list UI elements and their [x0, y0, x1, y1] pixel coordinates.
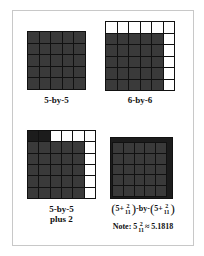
grid-cell	[118, 80, 129, 91]
grid-cell	[135, 165, 145, 175]
grid-cell	[62, 154, 72, 164]
grid-cell	[73, 154, 83, 164]
grid-5-by-5	[27, 31, 86, 90]
grid-cell	[74, 78, 85, 89]
fraction-2: 211	[164, 203, 170, 215]
grid-cell	[156, 154, 166, 164]
grid-cell	[141, 34, 152, 45]
grid-cell	[118, 45, 129, 56]
grid-cell	[73, 142, 83, 152]
grid-cell	[113, 143, 123, 153]
grid-5-by-5-plus-2	[27, 130, 96, 199]
grid-cell	[74, 32, 85, 43]
note-fraction: 211	[138, 221, 144, 233]
formula-whole-1: 5+	[116, 204, 125, 213]
formula: (5+211)-by-(5+211)	[98, 203, 188, 215]
grid-cell	[39, 154, 49, 164]
grid-cell	[63, 55, 74, 66]
grid-cell	[164, 34, 175, 45]
grid-cell	[106, 68, 117, 79]
grid-cell	[63, 32, 74, 43]
grid-cell	[118, 57, 129, 68]
grid-cell	[28, 165, 38, 175]
grid-cell	[124, 143, 134, 153]
grid-cell	[141, 57, 152, 68]
grid-cell	[164, 68, 175, 79]
grid-cell	[129, 34, 140, 45]
grid-cell	[141, 80, 152, 91]
grid-cell	[39, 176, 49, 186]
grid-cell	[40, 67, 51, 78]
paren-close-2: )	[170, 201, 174, 216]
grid-cell	[40, 55, 51, 66]
grid-cell	[85, 142, 95, 152]
grid-cell	[51, 67, 62, 78]
grid-cell	[51, 165, 61, 175]
grid-cell	[62, 188, 72, 198]
label-5-by-5-plus-2: 5-by-5 plus 2	[27, 204, 96, 224]
grid-6-by-6	[105, 21, 175, 91]
grid-cell	[51, 44, 62, 55]
grid-cell	[62, 131, 72, 141]
grid-cell	[51, 32, 62, 43]
grid-cell	[118, 68, 129, 79]
grid-cell	[85, 176, 95, 186]
label-line-1: 5-by-5	[27, 204, 96, 214]
grid-cell	[51, 131, 61, 141]
grid-cell	[124, 186, 134, 196]
denominator: 11	[164, 209, 170, 215]
grid-cell	[51, 188, 61, 198]
grid-cell	[28, 131, 38, 141]
grid-cell	[39, 188, 49, 198]
grid-cell	[51, 55, 62, 66]
grid-cell	[164, 80, 175, 91]
grid-cell	[145, 186, 155, 196]
grid-cell	[129, 22, 140, 33]
grid-cell	[51, 154, 61, 164]
grid-cell	[113, 175, 123, 185]
grid-cell	[39, 142, 49, 152]
grid-cell	[39, 165, 49, 175]
grid-cell	[156, 175, 166, 185]
grid-cell	[129, 57, 140, 68]
grid-cell	[156, 186, 166, 196]
grid-cell	[145, 165, 155, 175]
grid-cell	[28, 78, 39, 89]
grid-cell	[156, 143, 166, 153]
grid-cell	[62, 165, 72, 175]
grid-cell	[124, 175, 134, 185]
grid-cell	[141, 45, 152, 56]
grid-cell	[74, 67, 85, 78]
grid-fractional	[112, 142, 167, 197]
grid-cell	[39, 131, 49, 141]
label-6-by-6: 6-by-6	[105, 95, 175, 105]
grid-cell	[40, 78, 51, 89]
grid-cell	[51, 142, 61, 152]
grid-cell	[106, 45, 117, 56]
grid-cell	[113, 154, 123, 164]
grid-cell	[85, 188, 95, 198]
grid-cell	[28, 154, 38, 164]
note-suffix: ≈ 5.1818	[145, 222, 173, 231]
grid-cell	[51, 176, 61, 186]
grid-cell	[145, 143, 155, 153]
grid-cell	[40, 32, 51, 43]
grid-cell	[124, 154, 134, 164]
grid-cell	[135, 186, 145, 196]
grid-cell	[152, 57, 163, 68]
grid-cell	[106, 57, 117, 68]
label-5-by-5: 5-by-5	[27, 95, 86, 105]
grid-cell	[74, 44, 85, 55]
grid-cell	[85, 154, 95, 164]
note-prefix: Note: 5	[113, 222, 138, 231]
grid-cell	[62, 142, 72, 152]
grid-cell	[28, 67, 39, 78]
grid-cell	[106, 22, 117, 33]
grid-cell	[152, 68, 163, 79]
grid-cell	[74, 55, 85, 66]
grid-cell	[135, 154, 145, 164]
grid-cell	[28, 44, 39, 55]
grid-cell	[106, 80, 117, 91]
grid-cell	[62, 176, 72, 186]
grid-cell	[28, 176, 38, 186]
